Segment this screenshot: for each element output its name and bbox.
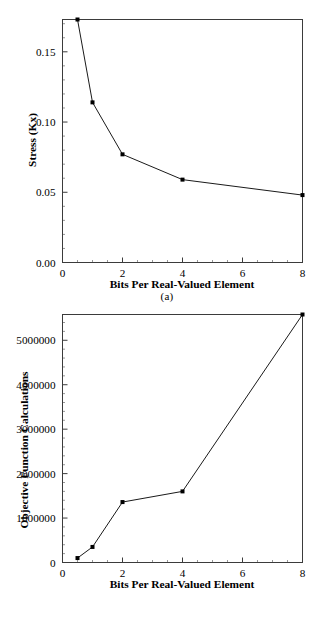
x-tick-label: 2 (120, 567, 126, 579)
x-axis-title: Bits Per Real-Valued Element (110, 278, 255, 290)
x-tick-label: 0 (60, 567, 66, 579)
data-point-markers (76, 18, 305, 198)
data-point-marker (301, 313, 305, 317)
y-axis-title: Objective Function Calculations (18, 371, 30, 528)
data-point-marker (76, 556, 80, 560)
axis-tick-marks (63, 24, 303, 263)
data-point-marker (181, 489, 185, 493)
y-axis-tick-labels: 0.000.050.100.15 (36, 46, 56, 269)
y-tick-label: 0.05 (36, 186, 56, 198)
x-tick-label: 2 (120, 267, 126, 279)
data-point-marker (301, 193, 305, 197)
y-tick-label: 4000000 (16, 379, 56, 391)
data-point-marker (91, 545, 95, 549)
x-tick-label: 0 (60, 267, 66, 279)
x-tick-label: 6 (240, 567, 246, 579)
x-axis-tick-labels: 02468 (60, 267, 306, 279)
axis-tick-marks (63, 323, 303, 563)
plot-frame (63, 315, 303, 563)
y-tick-label: 5000000 (16, 334, 56, 346)
stress-line-chart: Stress (Kx) 0.000.050.100.15 02468 Bits … (0, 0, 334, 300)
y-tick-label: 0.00 (36, 257, 56, 269)
y-tick-label: 2000000 (16, 468, 56, 480)
x-axis-title: Bits Per Real-Valued Element (110, 578, 255, 590)
x-tick-label: 4 (180, 567, 186, 579)
y-tick-label: 1000000 (16, 512, 56, 524)
data-point-marker (181, 178, 185, 182)
x-tick-label: 4 (180, 267, 186, 279)
data-line-series-1 (78, 20, 303, 196)
data-point-markers (76, 313, 305, 561)
y-tick-label: 0 (50, 557, 56, 569)
figure-two-panel-plot: Stress (Kx) 0.000.050.100.15 02468 Bits … (0, 0, 334, 618)
x-tick-label: 6 (240, 267, 246, 279)
chart-panel-a: Stress (Kx) 0.000.050.100.15 02468 Bits … (0, 0, 334, 310)
data-line-series-1 (78, 315, 303, 559)
x-axis-tick-labels: 02468 (60, 567, 306, 579)
data-point-marker (91, 100, 95, 104)
y-tick-label: 3000000 (16, 423, 56, 435)
chart-panel-b: Objective Function Calculations 01000000… (0, 300, 334, 618)
data-point-marker (121, 500, 125, 504)
data-point-marker (76, 18, 80, 22)
x-tick-label: 8 (300, 267, 306, 279)
x-tick-label: 8 (300, 567, 306, 579)
y-tick-label: 0.15 (36, 46, 56, 58)
data-point-marker (121, 152, 125, 156)
objective-function-line-chart: Objective Function Calculations 01000000… (0, 300, 334, 600)
y-tick-label: 0.10 (36, 116, 56, 128)
plot-frame (63, 20, 303, 263)
